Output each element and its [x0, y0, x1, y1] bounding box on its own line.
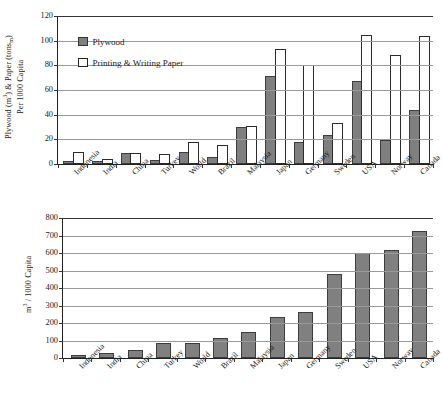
bar-norway-paper [390, 55, 401, 164]
bar-usa-paper [361, 35, 372, 164]
x-tick-mark [319, 358, 320, 362]
gridline-20 [58, 139, 433, 140]
y-tick-mark-60 [54, 90, 58, 91]
x-tick-mark [116, 164, 117, 168]
x-tick-mark [205, 358, 206, 362]
y-tick-mark-40 [54, 115, 58, 116]
legend-swatch-plywood [78, 37, 88, 47]
x-tick-mark [375, 164, 376, 168]
x-tick-mark [234, 358, 235, 362]
legend-label-plywood: Plywood [93, 37, 125, 47]
x-tick-mark [405, 358, 406, 362]
gridline-60 [58, 90, 433, 91]
y-tick-mark-120 [54, 16, 58, 17]
x-tick-mark [262, 358, 263, 362]
y-tick-mark-600 [59, 253, 63, 254]
y-tick-mark-800 [59, 218, 63, 219]
x-tick-mark [231, 164, 232, 168]
legend-label-printing-writing-paper: Printing & Writing Paper [93, 58, 184, 68]
x-tick-mark [145, 164, 146, 168]
gridline-120 [58, 16, 433, 17]
x-tick-mark [148, 358, 149, 362]
y-tick-mark-500 [59, 271, 63, 272]
x-tick-mark [87, 164, 88, 168]
gridline-100 [63, 341, 433, 342]
gridline-800 [63, 218, 433, 219]
y-tick-mark-400 [59, 288, 63, 289]
bar-malaysia [241, 332, 256, 359]
chart-panel-roundwood: m3 / 1000 Capita IndonesiaIndiaChinaTurk… [0, 206, 439, 401]
x-tick-mark [202, 164, 203, 168]
y-tick-mark-300 [59, 306, 63, 307]
legend-top: Plywood Printing & Writing Paper [78, 34, 183, 76]
y-axis-label-top: Plywood (m3) & Paper (tonsm) Per 1000 Ca… [2, 12, 26, 162]
legend-item-printing-writing-paper: Printing & Writing Paper [78, 55, 183, 70]
bar-norway [384, 250, 399, 358]
bar-japan-paper [275, 49, 286, 164]
gridline-300 [63, 306, 433, 307]
x-axis-labels-bottom: IndonesiaIndiaChinaTurkeyWorldBrazilMala… [63, 358, 433, 401]
x-tick-mark [318, 164, 319, 168]
bar-world [185, 343, 200, 358]
x-tick-mark [376, 358, 377, 362]
y-tick-mark-20 [54, 139, 58, 140]
gridline-700 [63, 236, 433, 237]
y-axis-label-top-line1: Plywood (m3) & Paper (tonsm) [4, 35, 13, 139]
x-tick-mark [433, 358, 434, 362]
x-tick-mark [260, 164, 261, 168]
gridline-600 [63, 253, 433, 254]
x-tick-mark [404, 164, 405, 168]
x-tick-mark-origin [58, 164, 59, 168]
gridline-200 [63, 323, 433, 324]
chart-panel-plywood-paper: Plywood (m3) & Paper (tonsm) Per 1000 Ca… [0, 8, 439, 206]
x-tick-mark [91, 358, 92, 362]
x-tick-mark [120, 358, 121, 362]
x-tick-mark [289, 164, 290, 168]
x-tick-mark [346, 164, 347, 168]
legend-item-plywood: Plywood [78, 34, 183, 49]
bar-germany [298, 312, 313, 358]
x-tick-mark [291, 358, 292, 362]
x-tick-mark [177, 358, 178, 362]
y-axis-label-bottom: m3 / 1000 Capita [22, 220, 34, 348]
bar-canada [412, 231, 427, 358]
x-tick-mark [173, 164, 174, 168]
x-axis-labels-top: IndonesiaIndiaChinaTurkeyWorldBrazilMala… [58, 164, 433, 208]
gridline-400 [63, 288, 433, 289]
bar-sweden-paper [332, 123, 343, 164]
gridline-40 [58, 115, 433, 116]
bar-turkey [156, 343, 171, 358]
y-tick-mark-200 [59, 323, 63, 324]
gridline-500 [63, 271, 433, 272]
x-tick-mark [348, 358, 349, 362]
x-tick-mark [433, 164, 434, 168]
x-tick-mark-origin [63, 358, 64, 362]
bar-malaysia-paper [246, 126, 257, 164]
y-tick-mark-100 [59, 341, 63, 342]
y-tick-mark-100 [54, 41, 58, 42]
legend-swatch-printing-writing-paper [78, 58, 88, 68]
y-tick-mark-80 [54, 65, 58, 66]
y-axis-label-top-line2: Per 1000 Capita [16, 60, 25, 114]
plot-area-bottom: IndonesiaIndiaChinaTurkeyWorldBrazilMala… [62, 218, 433, 359]
y-tick-mark-700 [59, 236, 63, 237]
bar-canada-paper [419, 36, 430, 164]
